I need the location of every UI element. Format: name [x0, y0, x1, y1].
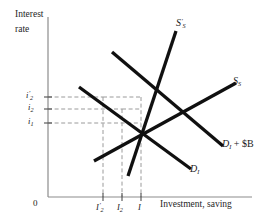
curve-label-sub-DI: I: [197, 168, 199, 175]
curve-label-suffix-DIB: + $B: [231, 138, 253, 149]
x-axis-title: Investment, saving: [160, 200, 232, 210]
origin-label: 0: [33, 199, 38, 208]
y-tick-label-i1: i1: [28, 117, 33, 126]
curve-label-investment-demand: DI: [190, 164, 199, 174]
investment-saving-chart: Interest rate Investment, saving 0 i′2 i…: [0, 0, 269, 224]
curve-label-investment-demand-plus-deficit: DI + $B: [222, 139, 254, 149]
curve-label-sub-DIB: I: [229, 143, 231, 150]
curve-label-sub-S: S: [238, 80, 241, 87]
x-tick-label-I: I: [138, 203, 141, 212]
curve-label-sub-Sprime: S: [183, 22, 186, 29]
curve-label-saving-supply-shifted: S′S: [176, 18, 186, 28]
x-tick-label-I2: I2: [117, 203, 123, 212]
y-tick-label-i2: i2: [28, 103, 33, 112]
x-tick-label-I2prime: I′2: [96, 203, 103, 212]
x-tick-sub-I2prime: 2: [100, 206, 103, 213]
y-axis-title-line1: Interest: [15, 10, 44, 20]
y-axis-title-line2: rate: [15, 25, 29, 35]
y-tick-sub-i2prime: 2: [30, 94, 33, 101]
y-tick-label-i2prime: i′2: [26, 91, 33, 100]
x-tick-sub-I2: 2: [120, 206, 123, 213]
chart-canvas: [0, 0, 269, 224]
curve-label-saving-supply: SS: [233, 76, 241, 86]
